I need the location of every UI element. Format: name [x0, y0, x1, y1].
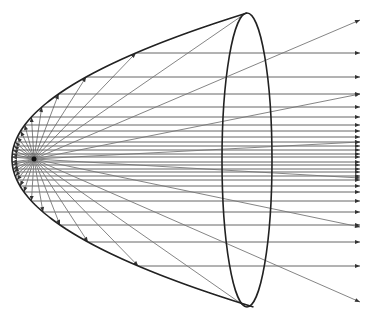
parabolic-reflector-diagram	[0, 0, 370, 319]
reflection-arrowhead-icon	[13, 165, 18, 169]
ray-arrowhead-icon	[355, 184, 360, 188]
incident-ray	[34, 107, 42, 159]
ray-arrowhead-icon	[355, 264, 360, 268]
ray-arrowhead-icon	[355, 140, 360, 144]
direct-ray	[34, 142, 360, 159]
focal-point	[32, 157, 37, 162]
ray-arrowhead-icon	[355, 148, 360, 152]
incident-ray	[34, 77, 86, 159]
direct-ray	[34, 94, 360, 159]
ray-arrowhead-icon	[355, 190, 360, 194]
ray-arrowhead-icon	[355, 170, 360, 174]
incident-ray	[34, 159, 88, 242]
ray-arrowhead-icon	[355, 20, 360, 24]
direct-ray	[34, 20, 360, 159]
ray-arrowhead-icon	[355, 115, 360, 119]
ray-arrowhead-icon	[355, 163, 360, 167]
ray-arrowhead-icon	[355, 210, 360, 214]
reflector-rim-ellipse	[222, 13, 272, 307]
incident-ray	[34, 159, 138, 266]
ray-arrowhead-icon	[355, 75, 360, 79]
incident-ray	[34, 53, 136, 159]
reflection-arrowhead-icon	[21, 131, 25, 136]
ray-arrowhead-icon	[355, 51, 360, 55]
ray-arrowhead-icon	[355, 240, 360, 244]
reflection-arrowhead-icon	[20, 181, 24, 186]
ray-arrowhead-icon	[355, 199, 360, 203]
ray-arrowhead-icon	[355, 298, 360, 302]
ray-arrowhead-icon	[355, 155, 360, 159]
ray-arrowhead-icon	[355, 135, 360, 139]
ray-arrowhead-icon	[355, 123, 360, 127]
rays	[12, 13, 360, 307]
ray-arrowhead-icon	[355, 129, 360, 133]
ray-arrowhead-icon	[355, 105, 360, 109]
ray-arrowhead-icon	[355, 144, 360, 148]
